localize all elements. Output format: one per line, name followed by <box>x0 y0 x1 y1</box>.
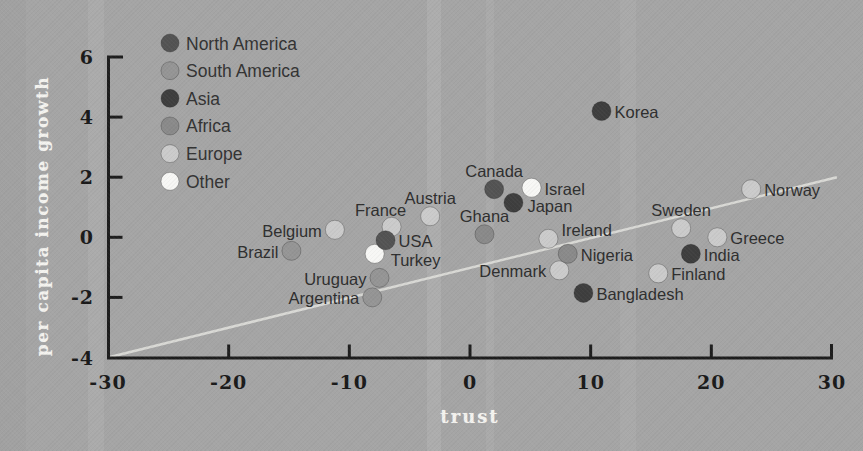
data-point-label-norway: Norway <box>764 181 821 199</box>
legend-label-europe: Europe <box>186 144 242 164</box>
data-point-label-belgium: Belgium <box>262 222 322 240</box>
data-point-label-ghana: Ghana <box>460 207 510 225</box>
data-point-usa <box>376 231 395 250</box>
data-point-belgium <box>325 220 344 239</box>
legend-item-other: Other <box>161 172 230 192</box>
data-point-label-canada: Canada <box>465 162 524 180</box>
legend-label-south-america: South America <box>186 61 300 81</box>
y-tick-label-4: 4 <box>80 106 94 128</box>
legend-swatch-other <box>161 172 179 190</box>
data-point-canada <box>485 180 504 199</box>
y-tick-label--2: -2 <box>71 286 94 308</box>
legend-label-africa: Africa <box>186 116 231 136</box>
data-point-norway <box>742 180 761 199</box>
data-point-denmark <box>550 261 569 280</box>
legend: North AmericaSouth AmericaAsiaAfricaEuro… <box>161 34 300 192</box>
data-point-label-argentina: Argentina <box>289 289 360 307</box>
data-point-label-bangladesh: Bangladesh <box>596 285 683 303</box>
y-tick-label-2: 2 <box>80 166 94 188</box>
x-tick-label--20: -20 <box>210 371 247 393</box>
data-point-argentina <box>363 288 382 307</box>
data-point-greece <box>708 228 727 247</box>
data-point-israel <box>522 178 541 197</box>
trend-line <box>108 177 837 357</box>
y-tick-label-6: 6 <box>80 46 94 68</box>
data-point-label-uruguay: Uruguay <box>304 270 367 288</box>
data-point-label-turkey: Turkey <box>391 251 442 269</box>
y-tick-label--4: -4 <box>71 347 94 369</box>
legend-item-africa: Africa <box>161 116 231 136</box>
scatter-plot-canvas: 6420-2-4-30-20-100102030BelgiumFranceAus… <box>0 0 863 451</box>
data-point-ireland <box>539 229 558 248</box>
data-point-label-usa: USA <box>399 232 433 250</box>
x-tick-label-20: 20 <box>697 371 725 393</box>
legend-swatch-africa <box>161 117 179 135</box>
legend-item-asia: Asia <box>161 89 220 109</box>
legend-item-south-america: South America <box>161 61 300 81</box>
data-point-label-austria: Austria <box>405 189 457 207</box>
data-point-label-finland: Finland <box>671 265 725 283</box>
legend-label-north-america: North America <box>186 34 297 54</box>
data-point-label-sweden: Sweden <box>651 201 711 219</box>
legend-swatch-north-america <box>161 34 179 52</box>
x-tick-label--10: -10 <box>331 371 368 393</box>
legend-swatch-south-america <box>161 62 179 80</box>
trust-growth-scatter-page: 6420-2-4-30-20-100102030BelgiumFranceAus… <box>0 0 863 451</box>
y-axis-title: per capita income growth <box>32 76 52 356</box>
data-point-brazil <box>282 241 301 260</box>
x-tick-label-10: 10 <box>576 371 604 393</box>
legend-item-north-america: North America <box>161 34 297 54</box>
data-point-label-greece: Greece <box>730 229 784 247</box>
x-tick-label--30: -30 <box>89 371 126 393</box>
data-point-ghana <box>475 225 494 244</box>
y-tick-label-0: 0 <box>80 226 94 248</box>
data-point-nigeria <box>558 244 577 263</box>
x-tick-label-30: 30 <box>818 371 846 393</box>
data-point-korea <box>592 102 611 121</box>
x-axis-title: trust <box>440 406 499 427</box>
legend-swatch-europe <box>161 145 179 163</box>
legend-item-europe: Europe <box>161 144 242 164</box>
legend-swatch-asia <box>161 89 179 107</box>
legend-label-other: Other <box>186 172 230 192</box>
data-point-label-india: India <box>704 246 741 264</box>
data-point-label-japan: Japan <box>527 197 572 215</box>
data-point-sweden <box>672 219 691 238</box>
x-tick-label-0: 0 <box>463 371 477 393</box>
legend-label-asia: Asia <box>186 89 220 109</box>
data-point-label-france: France <box>355 201 406 219</box>
data-point-india <box>681 244 700 263</box>
data-point-label-ireland: Ireland <box>561 221 611 239</box>
data-point-finland <box>649 264 668 283</box>
data-point-label-korea: Korea <box>615 103 660 121</box>
data-point-bangladesh <box>574 283 593 302</box>
data-point-label-brazil: Brazil <box>237 243 278 261</box>
data-point-label-israel: Israel <box>545 180 585 198</box>
data-point-austria <box>421 207 440 226</box>
data-point-label-nigeria: Nigeria <box>581 246 634 264</box>
data-point-uruguay <box>370 268 389 287</box>
data-point-label-denmark: Denmark <box>479 262 547 280</box>
